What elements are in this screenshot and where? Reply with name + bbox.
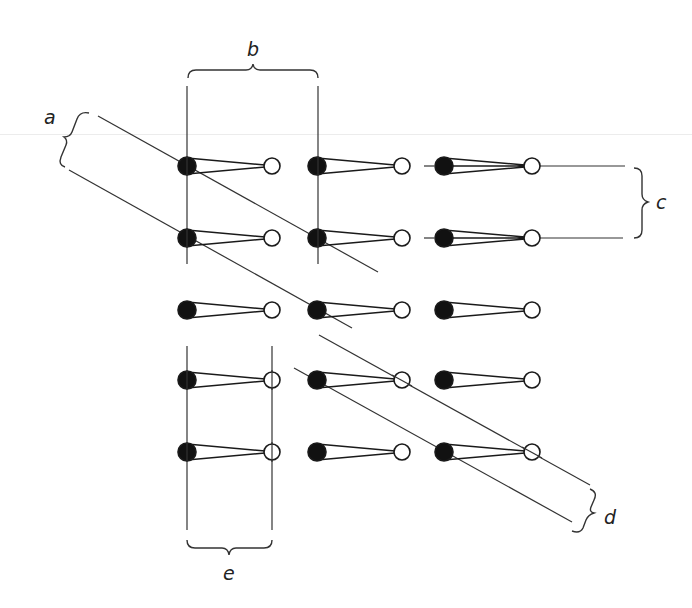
molecule-r2-c1: [178, 229, 280, 247]
molecule-lattice-diagram: [0, 0, 692, 608]
label-d: d: [604, 508, 616, 527]
label-e: e: [223, 564, 235, 583]
a-brace: [60, 113, 89, 167]
d-brace: [572, 489, 595, 532]
b-brace: [188, 64, 318, 78]
d-guide-upper: [319, 335, 590, 485]
molecule-r2-c2: [308, 229, 410, 247]
molecule-r3-c2: [308, 301, 410, 319]
molecule-r3-c1: [178, 301, 280, 319]
molecule-r5-c3: [435, 443, 540, 461]
label-c: c: [656, 193, 666, 212]
molecule-r4-c2: [308, 371, 410, 389]
molecule-r5-c2: [308, 443, 410, 461]
molecule-r2-c3: [435, 229, 540, 247]
label-b: b: [247, 40, 259, 59]
molecule-r1-c1: [178, 157, 280, 175]
molecule-r5-c1: [178, 443, 280, 461]
molecule-r4-c1: [178, 371, 280, 389]
molecule-r4-c3: [435, 371, 540, 389]
e-brace: [187, 540, 272, 555]
molecule-r3-c3: [435, 301, 540, 319]
molecule-r1-c2: [308, 157, 410, 175]
label-a: a: [44, 108, 56, 127]
molecule-r1-c3: [435, 157, 540, 175]
a-guide-upper: [98, 116, 378, 272]
c-brace: [634, 168, 648, 238]
